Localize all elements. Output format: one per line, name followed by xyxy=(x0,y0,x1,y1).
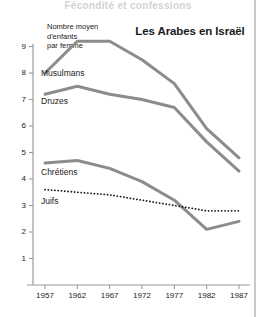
series-label-juifs: Juifs xyxy=(41,196,58,206)
x-tick-label: 1977 xyxy=(157,291,191,300)
y-tick-label: 7 xyxy=(14,95,26,104)
x-tick-label: 1987 xyxy=(222,291,256,300)
y-tick-label: 5 xyxy=(14,148,26,157)
series-label-musulmans: Musulmans xyxy=(41,68,84,78)
y-tick-label: 3 xyxy=(14,201,26,210)
y-tick-label: 8 xyxy=(14,68,26,77)
chart-plot-area xyxy=(0,0,256,317)
x-tick-label: 1967 xyxy=(93,291,127,300)
x-tick-label: 1982 xyxy=(190,291,224,300)
y-tick-label: 2 xyxy=(14,227,26,236)
y-tick-label: 6 xyxy=(14,121,26,130)
series-line-druzes xyxy=(45,86,239,171)
series-line-juifs xyxy=(45,190,239,211)
series-label-chretiens: Chrétiens xyxy=(41,167,77,177)
x-tick-label: 1962 xyxy=(60,291,94,300)
chart-frame: Fécondité et confessions Les Arabes en I… xyxy=(0,0,256,317)
y-tick-label: 9 xyxy=(14,42,26,51)
x-tick-label: 1957 xyxy=(28,291,62,300)
y-tick-label: 4 xyxy=(14,174,26,183)
y-tick-label: 1 xyxy=(14,254,26,263)
x-tick-label: 1972 xyxy=(125,291,159,300)
series-label-druzes: Druzes xyxy=(41,96,68,106)
